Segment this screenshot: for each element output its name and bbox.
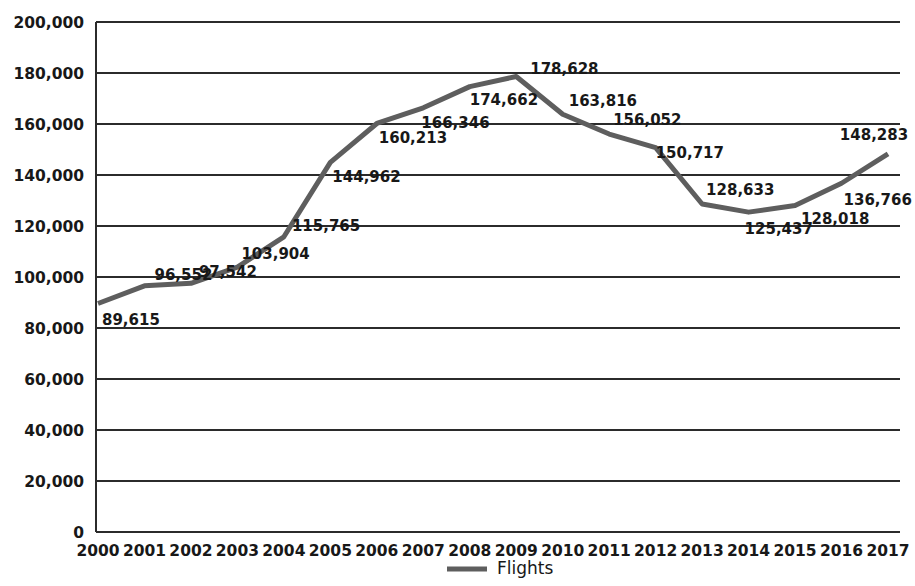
y-axis-tick-label: 20,000 <box>24 473 84 491</box>
x-axis-tick-label: 2006 <box>355 542 398 560</box>
flights-line-chart: 200,000180,000160,000140,000120,000100,0… <box>0 0 915 586</box>
data-point-label: 166,346 <box>421 114 489 132</box>
y-axis-tick-label: 0 <box>73 524 84 542</box>
y-axis-tick-label: 80,000 <box>24 320 84 338</box>
data-point-label: 97,542 <box>199 263 257 281</box>
x-axis-tick-label: 2017 <box>866 542 909 560</box>
data-point-label: 115,765 <box>292 217 360 235</box>
x-axis-tick-label: 2004 <box>262 542 305 560</box>
y-axis-tick-label: 180,000 <box>13 65 84 83</box>
x-axis-tick-label: 2001 <box>123 542 166 560</box>
y-axis-tick-label: 40,000 <box>24 422 84 440</box>
data-point-label: 136,766 <box>844 191 912 209</box>
legend-label-flights: Flights <box>497 558 553 578</box>
y-axis-tick-label: 100,000 <box>13 269 84 287</box>
x-axis-tick-label: 2003 <box>216 542 259 560</box>
data-point-label: 148,283 <box>840 126 908 144</box>
data-point-label: 128,633 <box>706 181 774 199</box>
x-axis-tick-label: 2002 <box>169 542 212 560</box>
data-point-label: 103,904 <box>241 245 309 263</box>
y-axis-tick-label: 60,000 <box>24 371 84 389</box>
data-point-label: 156,052 <box>613 111 681 129</box>
x-axis-tick-label: 2014 <box>727 542 770 560</box>
x-axis-tick-label: 2005 <box>309 542 352 560</box>
data-point-label: 144,962 <box>332 168 400 186</box>
data-point-label: 160,213 <box>379 129 447 147</box>
x-axis-tick-label: 2008 <box>448 542 491 560</box>
x-axis-tick-label: 2000 <box>76 542 119 560</box>
x-axis-tick-label: 2015 <box>773 542 816 560</box>
data-point-label: 163,816 <box>569 92 637 110</box>
x-axis-tick-label: 2007 <box>402 542 445 560</box>
x-axis-tick-labels: 2000200120022003200420052006200720082009… <box>76 542 909 560</box>
chart-canvas: 200,000180,000160,000140,000120,000100,0… <box>0 0 915 586</box>
data-point-label: 128,018 <box>801 210 869 228</box>
y-axis-tick-label: 160,000 <box>13 116 84 134</box>
y-axis-tick-labels: 200,000180,000160,000140,000120,000100,0… <box>13 14 84 542</box>
chart-legend: Flights <box>447 558 553 578</box>
x-axis-tick-label: 2012 <box>634 542 677 560</box>
x-axis-tick-label: 2013 <box>681 542 724 560</box>
data-point-label: 89,615 <box>102 311 160 329</box>
data-point-label: 150,717 <box>656 144 724 162</box>
y-axis-tick-label: 200,000 <box>13 14 84 32</box>
x-axis-tick-label: 2016 <box>820 542 863 560</box>
x-axis-tick-label: 2011 <box>588 542 631 560</box>
data-point-label: 174,662 <box>470 91 538 109</box>
data-point-label: 178,628 <box>530 60 598 78</box>
data-point-labels: 89,61596,55297,542103,904115,765144,9621… <box>102 60 912 329</box>
y-axis-tick-label: 140,000 <box>13 167 84 185</box>
y-axis-tick-label: 120,000 <box>13 218 84 236</box>
